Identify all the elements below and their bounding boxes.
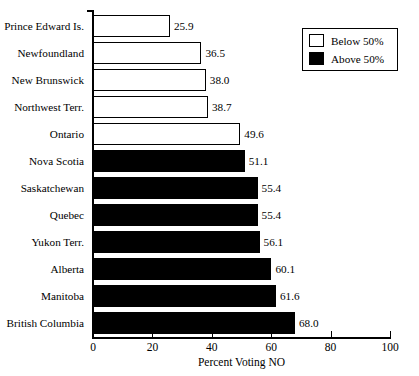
category-label: Alberta xyxy=(0,263,84,275)
x-axis-tick-label: 40 xyxy=(192,341,232,354)
bar-value-label: 25.9 xyxy=(174,20,194,32)
category-label: British Columbia xyxy=(0,317,84,329)
category-label: Nova Scotia xyxy=(0,155,84,167)
category-label: New Brunswick xyxy=(0,74,84,86)
legend-entry-above-50: Above 50% xyxy=(309,50,384,67)
bar-above-50 xyxy=(93,177,258,199)
category-label: Yukon Terr. xyxy=(0,236,84,248)
category-label: Prince Edward Is. xyxy=(0,20,84,32)
bar-value-label: 55.4 xyxy=(262,182,282,194)
bar-value-label: 68.0 xyxy=(299,317,319,329)
x-axis-title: Percent Voting NO xyxy=(93,356,390,369)
x-axis-tick-label: 100 xyxy=(370,341,410,354)
bar-below-50 xyxy=(93,96,208,118)
x-axis-tick xyxy=(152,331,153,338)
bar-value-label: 38.0 xyxy=(210,74,230,86)
category-label: Quebec xyxy=(0,209,84,221)
bar-above-50 xyxy=(93,231,260,253)
bar-below-50 xyxy=(93,123,240,145)
bar-above-50 xyxy=(93,312,295,334)
bar-above-50 xyxy=(93,285,276,307)
category-label: Newfoundland xyxy=(0,47,84,59)
legend-label-above-50: Above 50% xyxy=(331,53,384,65)
bar-below-50 xyxy=(93,15,170,37)
bar-above-50 xyxy=(93,150,245,172)
legend-swatch-above-50-icon xyxy=(309,52,324,65)
bar-value-label: 38.7 xyxy=(212,101,232,113)
x-axis-tick-label: 60 xyxy=(251,341,291,354)
bar-below-50 xyxy=(93,69,206,91)
x-axis-tick-label: 0 xyxy=(73,341,113,354)
x-axis-tick xyxy=(390,331,391,338)
x-axis-tick xyxy=(331,331,332,338)
bar-below-50 xyxy=(93,42,201,64)
x-axis-tick-label: 20 xyxy=(132,341,172,354)
category-label: Ontario xyxy=(0,128,84,140)
legend-entry-below-50: Below 50% xyxy=(309,32,384,49)
y-axis-line xyxy=(92,10,94,339)
category-label: Manitoba xyxy=(0,290,84,302)
y-axis-top-tick xyxy=(87,10,93,12)
bar-value-label: 36.5 xyxy=(205,47,225,59)
x-axis-tick xyxy=(271,331,272,338)
x-axis-line xyxy=(92,337,391,339)
bar-above-50 xyxy=(93,204,258,226)
bar-above-50 xyxy=(93,258,271,280)
legend-label-below-50: Below 50% xyxy=(331,35,384,47)
x-axis-tick-label: 80 xyxy=(311,341,351,354)
category-label: Saskatchewan xyxy=(0,182,84,194)
chart-legend: Below 50% Above 50% xyxy=(302,28,398,71)
x-axis-tick xyxy=(212,331,213,338)
bar-value-label: 60.1 xyxy=(275,263,295,275)
category-label: Northwest Terr. xyxy=(0,101,84,113)
bar-chart: Prince Edward Is.NewfoundlandNew Brunswi… xyxy=(0,0,419,376)
bar-value-label: 61.6 xyxy=(280,290,300,302)
bar-value-label: 49.6 xyxy=(244,128,264,140)
legend-swatch-below-50-icon xyxy=(309,34,324,47)
bar-value-label: 51.1 xyxy=(249,155,269,167)
category-axis-labels: Prince Edward Is.NewfoundlandNew Brunswi… xyxy=(0,12,88,337)
bar-value-label: 55.4 xyxy=(262,209,282,221)
x-axis-tick xyxy=(93,331,94,338)
bar-value-label: 56.1 xyxy=(264,236,284,248)
